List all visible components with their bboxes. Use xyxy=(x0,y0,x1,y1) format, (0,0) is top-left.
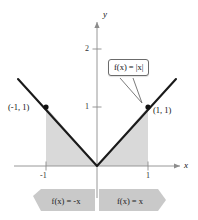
y-tick-label-1: 1 xyxy=(85,103,89,111)
callout-tail xyxy=(120,78,142,103)
x-tick-label--1: -1 xyxy=(40,172,47,180)
x-axis-label: x xyxy=(184,161,188,170)
x-tick-label-1: 1 xyxy=(146,172,150,180)
y-tick-label-2: 2 xyxy=(85,45,89,53)
absolute-value-figure: y x 1 2 -1 1 (-1, 1) (1, 1) f(x) = |x| f… xyxy=(0,0,198,220)
banner-label-right: f(x) = x xyxy=(104,196,156,206)
point-marker-right xyxy=(145,104,150,109)
point-label-right: (1, 1) xyxy=(153,106,171,115)
banner-label-left: f(x) = -x xyxy=(40,196,92,206)
x-axis-arrowhead xyxy=(174,163,180,168)
function-callout-box: f(x) = |x| xyxy=(108,59,149,76)
point-label-left: (-1, 1) xyxy=(8,103,29,112)
y-axis-arrowhead xyxy=(94,22,99,28)
y-axis-label: y xyxy=(103,10,107,19)
function-callout-text: f(x) = |x| xyxy=(114,62,143,72)
point-marker-left xyxy=(43,104,48,109)
